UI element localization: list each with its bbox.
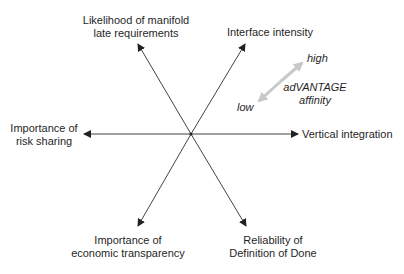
label-top-left: Likelihood of manifold late requirements — [68, 14, 204, 40]
affinity-arrow-low — [259, 82, 280, 101]
label-bottom-right: Reliability of Definition of Done — [218, 234, 328, 260]
legend-high-label: high — [307, 52, 328, 65]
legend-low-label: low — [237, 101, 254, 114]
axis-arrow-bottom-left — [138, 134, 191, 226]
legend-title: adVANTAGE affinity — [280, 81, 350, 107]
axis-arrow-top-left — [138, 44, 191, 134]
affinity-arrow — [280, 63, 302, 82]
label-top-right: Interface intensity — [220, 26, 320, 39]
axis-arrow-bottom-right — [191, 134, 246, 226]
center-point — [190, 133, 193, 136]
label-left: Importance of risk sharing — [6, 122, 82, 148]
label-bottom-left: Importance of economic transparency — [70, 234, 186, 260]
label-right: Vertical integration — [302, 128, 393, 141]
axis-arrow-top-right — [191, 44, 245, 134]
